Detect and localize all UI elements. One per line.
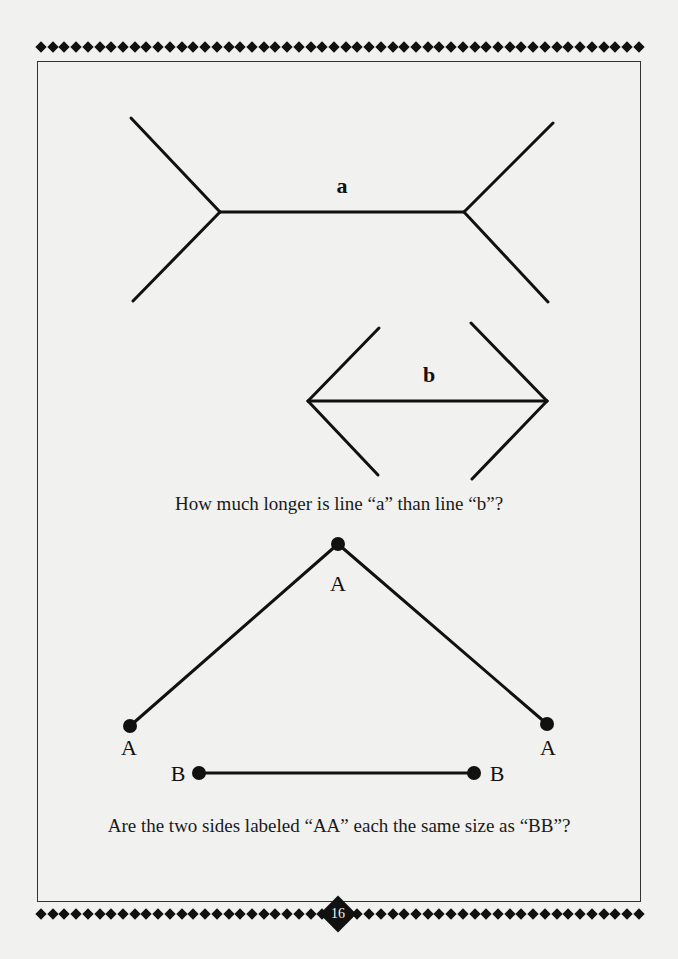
figure-aa-points xyxy=(123,537,554,733)
diamond-icon xyxy=(363,908,374,919)
diamond-icon xyxy=(59,908,70,919)
diamond-icon xyxy=(47,908,58,919)
diamond-icon xyxy=(574,908,585,919)
diamond-icon xyxy=(129,908,140,919)
label-a-right: A xyxy=(540,735,556,760)
side-aa-left xyxy=(130,544,338,726)
diamond-icon xyxy=(35,908,46,919)
line-a-fin xyxy=(464,212,548,302)
page-number-badge: 16 xyxy=(320,896,356,932)
diamond-icon xyxy=(621,908,632,919)
diamond-icon xyxy=(375,908,386,919)
page-number: 16 xyxy=(320,896,356,932)
point-b-right xyxy=(467,766,481,780)
diamond-icon xyxy=(469,908,480,919)
figure-a-mueller-lyer xyxy=(131,118,553,302)
line-a-fin xyxy=(133,212,220,301)
diamond-icon xyxy=(164,908,175,919)
diamond-icon xyxy=(70,908,81,919)
diamond-icon xyxy=(199,908,210,919)
diamond-icon xyxy=(387,908,398,919)
line-a-fin xyxy=(131,118,220,212)
diamond-icon xyxy=(305,908,316,919)
diamond-icon xyxy=(211,908,222,919)
diamond-icon xyxy=(176,908,187,919)
line-a-fin xyxy=(464,123,553,212)
line-b-fin xyxy=(472,401,547,479)
point-a-left xyxy=(123,719,137,733)
diamond-icon xyxy=(141,908,152,919)
point-a-right xyxy=(540,717,554,731)
point-a-top xyxy=(331,537,345,551)
label-b-right: B xyxy=(490,761,505,786)
diamond-icon xyxy=(188,908,199,919)
diamond-icon xyxy=(399,908,410,919)
diamond-icon xyxy=(445,908,456,919)
point-b-left xyxy=(192,766,206,780)
diamond-icon xyxy=(539,908,550,919)
diamond-icon xyxy=(504,908,515,919)
diamond-icon xyxy=(586,908,597,919)
question-1-caption: How much longer is line “a” than line “b… xyxy=(0,493,678,515)
diamond-icon xyxy=(516,908,527,919)
diamond-icon xyxy=(551,908,562,919)
diamond-icon xyxy=(410,908,421,919)
diamond-icon xyxy=(563,908,574,919)
diamond-icon xyxy=(82,908,93,919)
diamond-icon xyxy=(293,908,304,919)
figure-bb-segment xyxy=(192,766,481,780)
label-b: b xyxy=(423,362,435,387)
line-b-fin xyxy=(308,401,378,475)
diamond-icon xyxy=(492,908,503,919)
diamond-icon xyxy=(457,908,468,919)
label-b-left: B xyxy=(171,761,186,786)
diamond-icon xyxy=(598,908,609,919)
diamond-icon xyxy=(223,908,234,919)
label-a: a xyxy=(337,173,348,198)
diamond-icon xyxy=(153,908,164,919)
diamond-icon xyxy=(94,908,105,919)
diamond-icon xyxy=(481,908,492,919)
diamond-icon xyxy=(422,908,433,919)
diamond-icon xyxy=(235,908,246,919)
diamond-icon xyxy=(270,908,281,919)
diamond-icon xyxy=(106,908,117,919)
figure-b-mueller-lyer xyxy=(308,323,547,479)
diamond-icon xyxy=(281,908,292,919)
diamond-icon xyxy=(633,908,644,919)
diamond-icon xyxy=(434,908,445,919)
line-b-fin xyxy=(471,323,547,401)
question-2-caption: Are the two sides labeled “AA” each the … xyxy=(0,815,678,837)
diamond-icon xyxy=(258,908,269,919)
diamond-icon xyxy=(528,908,539,919)
diamond-icon xyxy=(246,908,257,919)
diamond-icon xyxy=(117,908,128,919)
diamond-icon xyxy=(610,908,621,919)
label-a-left: A xyxy=(121,735,137,760)
side-aa-right xyxy=(338,544,547,724)
line-b-fin xyxy=(308,328,379,401)
label-a-top: A xyxy=(330,571,346,596)
